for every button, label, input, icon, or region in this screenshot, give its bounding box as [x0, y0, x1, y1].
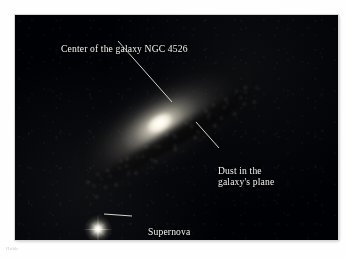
supernova-glow	[85, 216, 111, 240]
figure-caption-fragment: Hubb	[6, 246, 66, 253]
annotation-label-supernova: Supernova	[148, 226, 190, 237]
supernova-star	[85, 216, 111, 240]
annotation-label-dust: Dust in the galaxy's plane	[218, 165, 274, 188]
page-background: Center of the galaxy NGC 4526 Dust in th…	[0, 0, 346, 259]
annotation-label-center: Center of the galaxy NGC 4526	[61, 43, 188, 54]
astronomy-photograph: Center of the galaxy NGC 4526 Dust in th…	[15, 15, 338, 240]
